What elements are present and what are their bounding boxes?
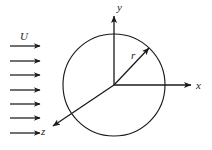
- figure-container: U y x z r: [0, 0, 212, 150]
- y-axis-label: y: [116, 1, 122, 13]
- axis-group: [53, 16, 191, 126]
- x-axis-label: x: [195, 79, 201, 91]
- radius-vector-label: r: [131, 49, 136, 61]
- z-axis-label: z: [40, 125, 46, 137]
- flow-arrow-group: [10, 46, 40, 133]
- z-axis-line: [53, 85, 114, 126]
- flow-velocity-label: U: [20, 30, 29, 42]
- coordinate-diagram: U y x z r: [0, 0, 212, 150]
